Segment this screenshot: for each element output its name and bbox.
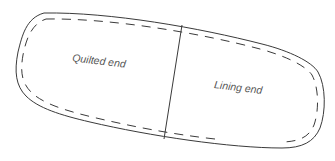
pattern-diagram: Quilted end Lining end [0,0,335,161]
outer-cut-line [16,13,324,148]
section-divider-line [164,25,182,139]
lining-end-label: Lining end [214,78,265,96]
quilted-end-label: Quilted end [72,51,128,70]
seam-allowance-line [22,19,318,142]
